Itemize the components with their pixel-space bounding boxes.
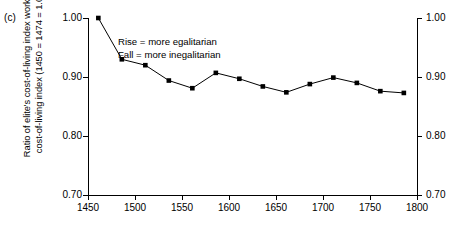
series-markers (96, 16, 406, 96)
y-axis-right-tick (417, 77, 422, 78)
y-axis-title-line-2: cost-of-living index (1450 = 1474 = 1.00… (33, 0, 45, 153)
x-axis-tick-label: 1600 (218, 202, 240, 213)
data-point-marker (378, 89, 383, 94)
data-series-layer (88, 18, 418, 196)
y-axis-right-tick (417, 136, 422, 137)
x-axis-tick-label: 1800 (406, 202, 428, 213)
data-point-marker (237, 76, 242, 81)
x-axis-tick (323, 196, 324, 200)
data-point-marker (261, 84, 266, 89)
y-axis-left-tick (83, 136, 88, 137)
data-point-marker (143, 63, 148, 68)
y-axis-right-tick-label: 0.80 (426, 131, 445, 141)
y-axis-right-tick-label: 1.00 (426, 13, 445, 23)
data-point-marker (96, 16, 101, 21)
y-axis-right-tick-label: 0.90 (426, 72, 445, 82)
x-axis-tick (417, 196, 418, 200)
data-point-marker (214, 71, 219, 76)
x-axis-tick (229, 196, 230, 200)
data-point-marker (190, 86, 195, 91)
y-axis-left-tick-label: 1.00 (63, 13, 82, 23)
figure-panel-c: (c) Ratio of elite's cost-of-living inde… (0, 0, 455, 234)
x-axis-tick-label: 1750 (359, 202, 381, 213)
x-axis-tick (88, 196, 89, 200)
y-axis-left-tick (83, 18, 88, 19)
panel-label: (c) (4, 12, 16, 23)
y-axis-title-line-1: Ratio of elite's cost-of-living index wo… (21, 0, 33, 157)
y-axis-left-tick-label: 0.80 (63, 131, 82, 141)
data-point-marker (331, 75, 336, 80)
x-axis-tick-label: 1450 (77, 202, 99, 213)
y-axis-left-tick-label: 0.70 (63, 190, 82, 200)
data-point-marker (167, 78, 172, 83)
y-axis-left-tick-label: 0.90 (63, 72, 82, 82)
data-point-marker (402, 91, 407, 96)
data-point-marker (308, 82, 313, 87)
y-axis-title: Ratio of elite's cost-of-living index wo… (18, 0, 48, 166)
data-point-marker (284, 90, 289, 95)
x-axis-tick (135, 196, 136, 200)
x-axis-tick-label: 1500 (124, 202, 146, 213)
y-axis-right-tick (417, 18, 422, 19)
x-axis-tick-label: 1550 (171, 202, 193, 213)
data-point-marker (120, 57, 125, 62)
plot-area: Rise = more egalitarian Fall = more ineg… (88, 18, 418, 196)
x-axis-tick (370, 196, 371, 200)
x-axis-tick (182, 196, 183, 200)
x-axis-tick-label: 1650 (265, 202, 287, 213)
y-axis-right-tick-label: 0.70 (426, 190, 445, 200)
data-point-marker (355, 81, 360, 86)
x-axis-tick (276, 196, 277, 200)
y-axis-left-tick (83, 77, 88, 78)
x-axis-tick-label: 1700 (312, 202, 334, 213)
